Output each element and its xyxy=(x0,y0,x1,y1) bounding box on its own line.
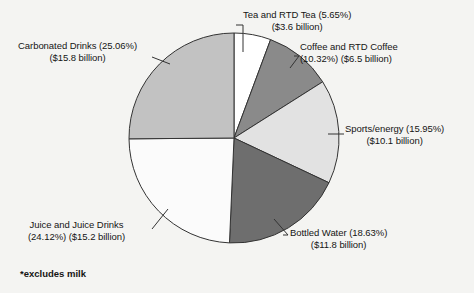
slice-label-carbonated-drinks-line1: Carbonated Drinks (25.06%) xyxy=(18,40,137,51)
slice-label-sports-energy: Sports/energy (15.95%) ($10.1 billion) xyxy=(345,123,444,147)
slice-label-sports-energy-line1: Sports/energy (15.95%) xyxy=(345,123,444,134)
slice-label-coffee-line2: (10.32%) ($6.5 billion) xyxy=(300,53,398,65)
slice-label-tea-line1: Tea and RTD Tea (5.65%) xyxy=(243,9,351,20)
slice-label-tea: Tea and RTD Tea (5.65%) ($3.6 billion) xyxy=(243,9,351,33)
slice-label-bottled-water-line2: ($11.8 billion) xyxy=(290,239,387,251)
slice-label-bottled-water: Bottled Water (18.63%) ($11.8 billion) xyxy=(290,227,387,251)
slice-label-juice-line2: (24.12%) ($15.2 billion) xyxy=(28,231,125,243)
pie-slice-juice-and-juice-drinks xyxy=(129,138,234,243)
slice-label-coffee-line1: Coffee and RTD Coffee xyxy=(300,41,398,52)
slice-label-coffee: Coffee and RTD Coffee (10.32%) ($6.5 bil… xyxy=(300,41,398,65)
slice-label-sports-energy-line2: ($10.1 billion) xyxy=(345,135,444,147)
chart-footnote: *excludes milk xyxy=(20,268,86,280)
slice-label-bottled-water-line1: Bottled Water (18.63%) xyxy=(290,227,387,238)
slice-label-tea-line2: ($3.6 billion) xyxy=(243,21,351,33)
slice-label-carbonated-drinks: Carbonated Drinks (25.06%) ($15.8 billio… xyxy=(18,40,137,64)
slice-label-juice: Juice and Juice Drinks (24.12%) ($15.2 b… xyxy=(28,219,125,243)
pie-chart-figure: Tea and RTD Tea (5.65%) ($3.6 billion) C… xyxy=(0,0,474,293)
pie-slice-carbonated-drinks xyxy=(129,33,234,139)
slice-label-juice-line1: Juice and Juice Drinks xyxy=(30,219,124,230)
slice-label-carbonated-drinks-line2: ($15.8 billion) xyxy=(18,52,137,64)
